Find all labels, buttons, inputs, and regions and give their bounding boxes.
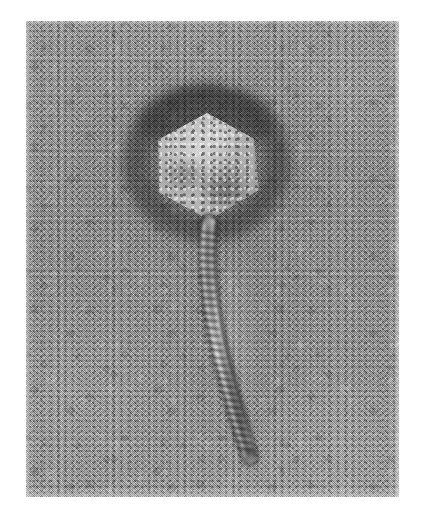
figure-caption: Negative-stain transmission electron mic… xyxy=(0,0,1,1)
plate-edge-fade xyxy=(26,21,399,497)
electron-micrograph-plate xyxy=(26,21,399,497)
micrograph-page: Negative-stain transmission electron mic… xyxy=(0,0,421,515)
